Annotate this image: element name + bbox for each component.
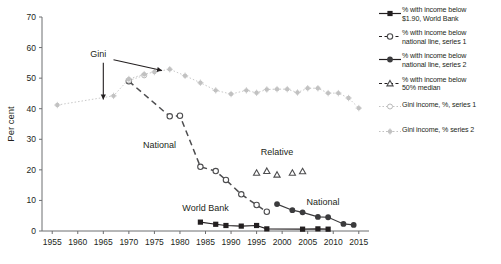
series-5 [54, 66, 362, 111]
legend-item: Gini income, %, series 1 [378, 99, 501, 112]
annotation-label: National [307, 197, 340, 207]
legend-key [378, 76, 402, 89]
legend-item: % with income belownational line, series… [378, 52, 501, 69]
legend-item: % with income belownational line, series… [378, 29, 501, 46]
legend-label-line1: % with income below [402, 29, 466, 38]
legend-marker-filled-square [378, 7, 402, 20]
legend-key [378, 29, 402, 42]
legend-marker-filled-circle [378, 53, 402, 66]
x-axis-tick-label: 2005 [298, 237, 317, 247]
legend-label-line2: 50% median [402, 84, 466, 93]
legend-key [378, 6, 402, 19]
x-axis-tick-label: 1985 [196, 237, 215, 247]
x-axis-tick-label: 1995 [247, 237, 266, 247]
legend-key [378, 124, 402, 137]
chart-figure: 0102030405060701955196019651970197519801… [0, 0, 501, 264]
annotation-label: Gini [90, 49, 106, 59]
legend-label: % with income below50% median [402, 76, 466, 93]
annotation-arrow [101, 63, 106, 100]
x-axis-tick-label: 1965 [94, 237, 113, 247]
legend-item: % with income below$1.90, World Bank [378, 6, 501, 23]
legend-label-line2: national line, series 1 [402, 38, 466, 47]
legend-label-line2: $1.90, World Bank [402, 15, 466, 24]
legend-label: % with income below$1.90, World Bank [402, 6, 466, 23]
y-axis-tick-label: 40 [27, 104, 37, 114]
legend-label-line1: Gini income, % series 2 [402, 126, 474, 135]
x-axis-tick-label: 1975 [145, 237, 164, 247]
y-axis-tick-label: 20 [27, 165, 37, 175]
legend-key [378, 99, 402, 112]
x-axis-tick-label: 1980 [170, 237, 189, 247]
legend-label-line1: % with income below [402, 52, 466, 61]
y-axis-tick-label: 0 [31, 226, 36, 236]
x-axis-tick-label: 2000 [273, 237, 292, 247]
legend-label: % with income belownational line, series… [402, 29, 466, 46]
x-axis-tick-label: 1955 [43, 237, 62, 247]
y-axis-label: Per cent [5, 106, 16, 142]
x-axis-tick-label: 2010 [324, 237, 343, 247]
y-axis-tick-label: 50 [27, 73, 37, 83]
legend-marker-open-triangle [378, 77, 402, 90]
legend-label-line1: % with income below [402, 6, 466, 15]
legend-item: Gini income, % series 2 [378, 124, 501, 137]
x-axis-tick-label: 1960 [68, 237, 87, 247]
y-axis-tick-label: 30 [27, 134, 37, 144]
chart-legend: % with income below$1.90, World Bank% wi… [378, 6, 501, 149]
legend-marker-open-circle [378, 30, 402, 43]
chart-annotations: GiniNationalWorld BankRelativeNational [90, 49, 339, 213]
y-axis-tick-label: 70 [27, 12, 37, 22]
legend-label-line1: Gini income, %, series 1 [402, 101, 476, 110]
series-3 [253, 168, 305, 177]
annotation-label: Relative [261, 147, 294, 157]
y-axis-tick-label: 10 [27, 195, 37, 205]
legend-label: Gini income, %, series 1 [402, 99, 476, 110]
legend-key [378, 52, 402, 65]
x-axis-tick-label: 1990 [222, 237, 241, 247]
x-axis-tick-label: 2015 [349, 237, 368, 247]
series-0 [198, 220, 331, 232]
legend-label-line1: % with income below [402, 76, 466, 85]
x-axis-tick-label: 1970 [119, 237, 138, 247]
legend-item: % with income below50% median [378, 76, 501, 93]
annotation-label: National [143, 140, 176, 150]
legend-label-line2: national line, series 2 [402, 61, 466, 70]
legend-label: % with income belownational line, series… [402, 52, 466, 69]
legend-marker-open-circle-light [378, 100, 402, 113]
y-axis-tick-label: 60 [27, 43, 37, 53]
legend-label: Gini income, % series 2 [402, 124, 474, 135]
annotation-label: World Bank [182, 203, 229, 213]
legend-marker-dot-light [378, 125, 402, 138]
